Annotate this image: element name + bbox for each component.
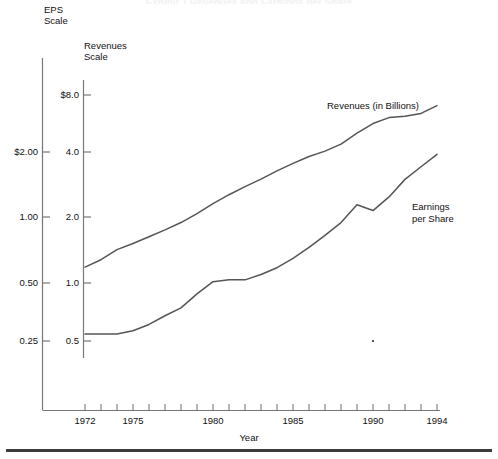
revenues-tick-label-0-5: 0.5 — [42, 335, 79, 346]
x-axis-label-1990: 1990 — [351, 415, 395, 426]
eps-scale-caption-line1: EPS — [44, 4, 63, 15]
bottom-rule — [6, 449, 492, 452]
x-axis-label-1980: 1980 — [191, 415, 235, 426]
eps-series-label: Earningsper Share — [412, 201, 454, 224]
eps-scale-caption: EPSScale — [44, 4, 68, 26]
eps-tick-label-0-50: 0.50 — [0, 277, 38, 288]
eps-series-label-line1: Earnings — [412, 201, 450, 212]
revenues-scale-caption-line1: Revenues — [84, 40, 127, 51]
x-axis-ticks — [85, 404, 437, 411]
eps-series-label-line2: per Share — [412, 213, 454, 224]
series-earnings-per-share — [85, 154, 437, 334]
eps-scale-caption-line2: Scale — [44, 15, 68, 26]
x-axis — [43, 404, 441, 411]
revenues-tick-label-4-0: 4.0 — [42, 146, 79, 157]
revenues-tick-label-1-0: 1.0 — [42, 277, 79, 288]
eps-axis — [43, 58, 51, 410]
series-revenues — [85, 106, 437, 268]
revenues-tick-label-8-0: $8.0 — [42, 89, 79, 100]
revenues-tick-label-2-0: 2.0 — [42, 211, 79, 222]
x-axis-title: Year — [0, 432, 498, 443]
stray-mark — [372, 340, 374, 342]
eps-tick-label-2-00: $2.00 — [0, 146, 38, 157]
revenues-axis — [84, 80, 92, 358]
x-axis-label-1985: 1985 — [271, 415, 315, 426]
eps-tick-label-1-00: 1.00 — [0, 211, 38, 222]
chart-root: Exhibit 1 Revenues and Earnings per Shar… — [0, 0, 498, 459]
x-axis-label-1975: 1975 — [111, 415, 155, 426]
revenues-series-label: Revenues (in Billions) — [327, 100, 419, 112]
revenues-scale-caption: RevenuesScale — [84, 40, 127, 62]
eps-tick-label-0-25: 0.25 — [0, 335, 38, 346]
chart-canvas — [0, 0, 498, 459]
revenues-scale-caption-line2: Scale — [84, 51, 108, 62]
x-axis-label-1994: 1994 — [415, 415, 459, 426]
x-axis-label-1972: 1972 — [63, 415, 107, 426]
